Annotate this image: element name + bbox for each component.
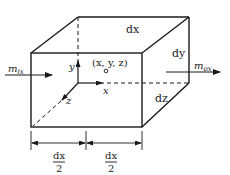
control-volume-diagram: dx dy dz (x, y, z) y x z mix mox dx 2 dx… [0,0,230,175]
hidden-edge-depth [33,101,61,126]
label-axis-z: z [65,95,72,106]
label-half-dx-num-right: dx [105,150,117,161]
label-mass-out: mox [194,60,212,73]
label-dx-top: dx [126,23,140,36]
label-half-dx-den-left: 2 [56,163,62,174]
label-dy: dy [172,47,186,60]
dimension-lines [31,131,142,162]
label-half-dx-num-left: dx [53,150,65,161]
edge-bottom-right [142,83,189,127]
cube [31,17,189,127]
label-axis-x: x [103,85,109,96]
label-axis-y: y [68,61,75,72]
label-dz: dz [155,92,168,105]
label-point: (x, y, z) [92,57,128,68]
label-mass-in: mix [8,63,24,76]
label-half-dx-den-right: 2 [108,163,114,174]
center-point-marker [104,69,108,73]
edge-top-left [31,17,78,53]
